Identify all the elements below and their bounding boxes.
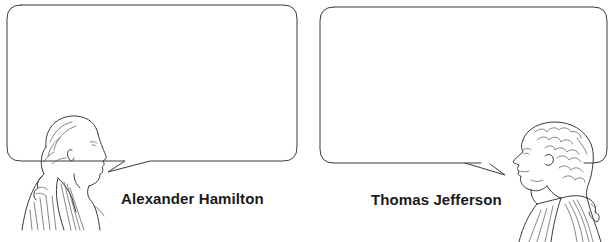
panel-hamilton: Alexander Hamilton <box>0 0 305 242</box>
hamilton-portrait-icon <box>14 112 114 242</box>
jefferson-portrait-icon <box>501 118 606 242</box>
speaker-name-jefferson: Thomas Jefferson <box>371 191 502 208</box>
speaker-name-hamilton: Alexander Hamilton <box>121 190 264 207</box>
panel-jefferson: Thomas Jefferson <box>305 0 610 242</box>
